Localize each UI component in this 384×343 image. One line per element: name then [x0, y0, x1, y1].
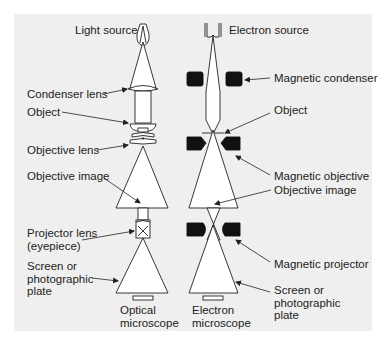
label-condenser-lens: Condenser lens — [27, 88, 108, 101]
electron-column — [189, 23, 238, 300]
optical-column — [116, 24, 168, 300]
magnetic-objective-left — [187, 137, 206, 150]
electron-beam-upper — [206, 36, 220, 134]
optical-tube-upper — [135, 91, 151, 123]
magnetic-condenser-left — [187, 72, 203, 86]
label-objective-image-electron: Objective image — [274, 184, 356, 197]
label-magnetic-objective: Magnetic objective — [274, 170, 369, 183]
photographic-plate — [133, 296, 153, 300]
label-screen-optical: Screen or photographic plate — [27, 260, 94, 298]
label-magnetic-condenser: Magnetic condenser — [274, 72, 378, 85]
label-object-optical: Object — [27, 106, 60, 119]
caption-optical-microscope: Optical microscope — [120, 304, 179, 329]
caption-electron-microscope: Electron microscope — [192, 304, 251, 329]
optical-tube-lower — [138, 208, 148, 220]
label-screen-electron: Screen or photographic plate — [274, 284, 341, 322]
objective-image-cone — [116, 146, 168, 208]
label-light-source: Light source — [75, 24, 138, 37]
label-object-electron: Object — [274, 104, 307, 117]
magnetic-projector-right — [223, 223, 241, 236]
magnetic-projector-left — [187, 223, 206, 236]
magnetic-objective-right — [221, 137, 240, 150]
light-beam-cone — [130, 42, 156, 88]
label-projector-lens: Projector lens (eyepiece) — [27, 227, 97, 252]
projection-cone — [116, 238, 168, 293]
label-objective-lens: Objective lens — [27, 144, 99, 157]
label-objective-image-optical: Objective image — [27, 170, 109, 183]
electron-photographic-plate — [203, 296, 223, 300]
magnetic-condenser-right — [226, 72, 242, 86]
label-electron-source: Electron source — [229, 24, 309, 37]
label-magnetic-projector: Magnetic projector — [274, 258, 369, 271]
objective-lens-icon — [132, 133, 154, 138]
